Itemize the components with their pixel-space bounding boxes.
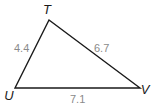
- side-label-tu: 4.4: [14, 42, 29, 54]
- triangle-diagram: T U V 4.4 6.7 7.1: [0, 0, 155, 107]
- vertex-label-u: U: [4, 88, 14, 103]
- vertex-label-v: V: [141, 82, 151, 97]
- side-label-uv: 7.1: [70, 93, 85, 105]
- vertex-label-t: T: [43, 2, 52, 17]
- side-label-tv: 6.7: [94, 42, 109, 54]
- triangle-tuv: [15, 20, 140, 88]
